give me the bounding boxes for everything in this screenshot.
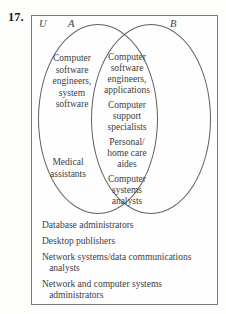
region-intersection-item: Computer software engineers, application… <box>92 52 162 96</box>
problem-number: 17. <box>8 10 24 25</box>
region-a-only-item: Medical assistants <box>36 157 100 180</box>
universal-set-label: U <box>39 18 47 29</box>
venn-diagram-figure: 17. U A B Computer software engineers, s… <box>0 0 226 314</box>
region-intersection-item: Computer support specialists <box>92 100 162 133</box>
region-intersection-item: Computer systems analysts <box>92 174 162 207</box>
universal-set-box: U A B Computer software engineers, syste… <box>31 15 218 305</box>
set-a-label: A <box>68 18 74 29</box>
set-b-label: B <box>170 18 176 29</box>
outside-list-item: Database administrators <box>42 220 214 231</box>
outside-list-item: Network systems/data communications anal… <box>42 252 214 274</box>
region-intersection-item: Personal/ home care aides <box>92 137 162 170</box>
region-outside-sets: Database administrators Desktop publishe… <box>42 220 214 301</box>
outside-list-item: Network and computer systems administrat… <box>42 279 214 301</box>
outside-list-item: Desktop publishers <box>42 236 214 247</box>
region-intersection: Computer software engineers, application… <box>92 52 162 207</box>
